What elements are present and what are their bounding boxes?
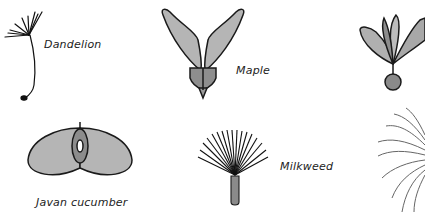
partial-seed-icon bbox=[360, 15, 425, 90]
dandelion-seed-icon bbox=[5, 12, 42, 100]
milkweed-seed-icon bbox=[198, 130, 268, 205]
javan-cucumber-seed-icon bbox=[28, 122, 132, 175]
javan-cucumber-label: Javan cucumber bbox=[36, 196, 128, 209]
seed-diagram bbox=[0, 0, 425, 212]
maple-label: Maple bbox=[236, 64, 270, 77]
milkweed-label: Milkweed bbox=[280, 160, 333, 173]
dandelion-label: Dandelion bbox=[44, 38, 102, 51]
partial-fiber-seed-icon bbox=[378, 108, 425, 212]
maple-seed-icon bbox=[162, 9, 244, 98]
